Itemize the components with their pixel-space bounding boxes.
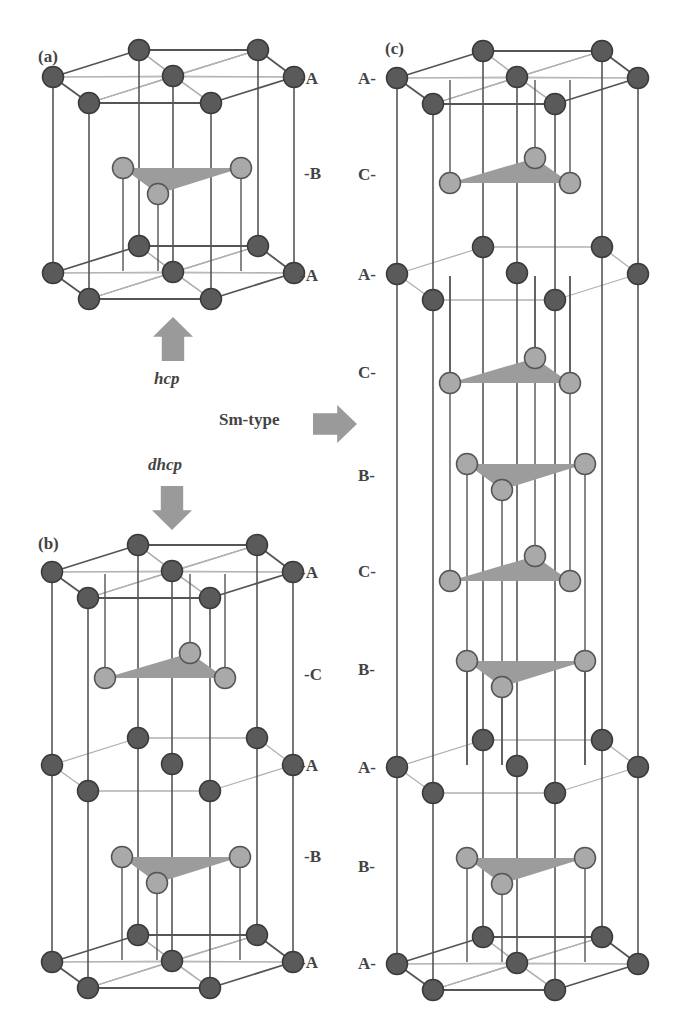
a-site-center-atom: [507, 953, 528, 974]
a-site-atom: [423, 980, 444, 1001]
layer-label-b-0: -A: [300, 564, 318, 581]
a-site-atom: [248, 40, 269, 61]
layer-label-c-1: C-: [358, 166, 376, 183]
panel-label-c: (c): [385, 40, 404, 57]
a-site-center-atom: [162, 951, 183, 972]
a-site-atom: [42, 755, 63, 776]
a-site-atom: [79, 93, 100, 114]
a-site-atom: [129, 40, 150, 61]
dhcp-label: dhcp: [148, 456, 182, 473]
layer-label-a-1: -B: [304, 165, 321, 182]
a-site-atom: [201, 289, 222, 310]
a-site-atom: [248, 236, 269, 257]
a-site-atom: [423, 290, 444, 311]
a-site-center-atom: [162, 754, 183, 775]
a-site-atom: [43, 263, 64, 284]
a-site-atom: [473, 41, 494, 62]
c-site-atom: [215, 668, 236, 689]
c-site-atom: [440, 373, 461, 394]
a-site-atom: [387, 68, 408, 89]
b-site-atom: [148, 184, 169, 205]
stacking-diagram: [0, 0, 686, 1031]
b-site-atom: [492, 480, 513, 501]
a-site-atom: [473, 927, 494, 948]
atoms: [42, 40, 649, 1001]
layer-label-a-2: -A: [300, 267, 318, 284]
a-site-atom: [473, 730, 494, 751]
a-site-atom: [592, 730, 613, 751]
a-site-atom: [592, 237, 613, 258]
layer-label-c-5: C-: [358, 563, 376, 580]
a-site-atom: [79, 289, 100, 310]
a-site-atom: [129, 236, 150, 257]
layer-label-c-9: A-: [358, 955, 376, 972]
a-site-center-atom: [163, 66, 184, 87]
a-site-atom: [200, 588, 221, 609]
b-site-atom: [575, 848, 596, 869]
a-site-center-atom: [507, 67, 528, 88]
layer-label-b-2: -A: [300, 757, 318, 774]
a-site-atom: [43, 67, 64, 88]
a-site-center-atom: [507, 756, 528, 777]
b-site-atom: [112, 847, 133, 868]
c-site-atom: [525, 546, 546, 567]
a-site-atom: [628, 264, 649, 285]
a-site-atom: [423, 783, 444, 804]
c-site-atom: [180, 643, 201, 664]
sm-type-label: Sm-type: [219, 411, 279, 428]
layer-label-c-4: B-: [358, 467, 375, 484]
a-site-atom: [545, 290, 566, 311]
c-site-atom: [560, 173, 581, 194]
a-site-atom: [247, 728, 268, 749]
a-site-atom: [78, 781, 99, 802]
a-site-atom: [387, 954, 408, 975]
a-site-atom: [592, 41, 613, 62]
c-site-atom: [560, 373, 581, 394]
a-site-atom: [545, 980, 566, 1001]
layer-label-c-2: A-: [358, 266, 376, 283]
a-site-atom: [628, 757, 649, 778]
c-site-atom: [95, 668, 116, 689]
b-site-atom: [457, 651, 478, 672]
b-site-atom: [147, 873, 168, 894]
a-site-atom: [545, 94, 566, 115]
hcp-label: hcp: [154, 370, 180, 387]
layer-label-b-1: -C: [304, 666, 322, 683]
layer-label-a-0: -A: [300, 70, 318, 87]
a-site-atom: [200, 978, 221, 999]
a-site-atom: [423, 94, 444, 115]
a-site-atom: [387, 757, 408, 778]
b-site-atom: [575, 454, 596, 475]
a-site-center-atom: [162, 561, 183, 582]
a-site-atom: [628, 954, 649, 975]
layer-label-c-0: A-: [358, 70, 376, 87]
a-site-atom: [247, 535, 268, 556]
a-site-atom: [200, 781, 221, 802]
c-site-atom: [440, 173, 461, 194]
a-site-atom: [545, 783, 566, 804]
a-site-atom: [128, 535, 149, 556]
b-site-atom: [492, 874, 513, 895]
a-site-atom: [387, 264, 408, 285]
a-site-atom: [42, 562, 63, 583]
a-site-atom: [78, 588, 99, 609]
layer-label-b-4: -A: [300, 954, 318, 971]
b-site-atom: [492, 677, 513, 698]
b-site-atom: [230, 847, 251, 868]
b-site-atom: [575, 651, 596, 672]
layer-label-b-3: -B: [304, 848, 321, 865]
layer-label-c-8: B-: [358, 858, 375, 875]
a-site-atom: [628, 68, 649, 89]
a-site-atom: [201, 93, 222, 114]
a-site-center-atom: [163, 262, 184, 283]
b-site-atom: [457, 848, 478, 869]
a-site-atom: [473, 237, 494, 258]
a-site-atom: [592, 927, 613, 948]
b-site-atom: [457, 454, 478, 475]
layer-label-c-3: C-: [358, 364, 376, 381]
c-site-atom: [560, 571, 581, 592]
panel-label-b: (b): [38, 535, 59, 552]
a-site-atom: [128, 925, 149, 946]
layer-label-c-6: B-: [358, 661, 375, 678]
c-site-atom: [440, 571, 461, 592]
